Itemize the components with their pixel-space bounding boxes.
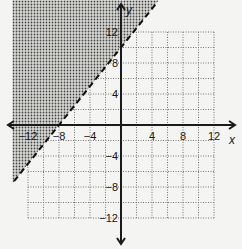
x-tick-label: 4	[149, 130, 155, 142]
x-tick-label: 8	[180, 130, 186, 142]
y-tick-label: 8	[112, 57, 118, 69]
y-tick-label: −12	[99, 212, 118, 224]
y-tick-label: 4	[112, 88, 118, 100]
x-tick-label: −12	[19, 130, 38, 142]
y-tick-label: −8	[105, 181, 118, 193]
y-tick-label: 12	[106, 26, 118, 38]
x-tick-label: −4	[84, 130, 97, 142]
y-tick-label: −4	[105, 150, 118, 162]
x-axis-label: x	[228, 133, 236, 147]
coordinate-plane: −12−8−448121284−4−8−12 x y	[0, 0, 242, 249]
x-tick-label: −8	[53, 130, 66, 142]
y-axis-label: y	[125, 3, 133, 17]
x-tick-label: 12	[208, 130, 220, 142]
